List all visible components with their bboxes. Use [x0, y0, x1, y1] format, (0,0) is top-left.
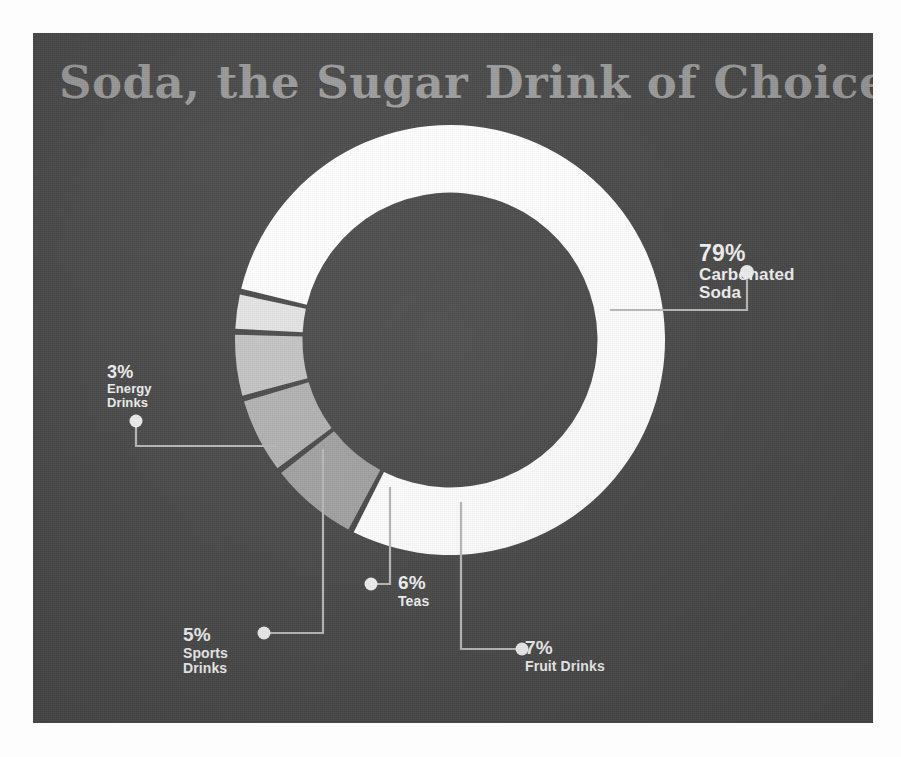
donut-chart	[33, 33, 873, 723]
callout-fruit-drinks-percent: 7%	[525, 638, 605, 659]
leader-dot-sports-drinks	[258, 627, 271, 640]
poster-page: Soda, the Sugar Drink of Choice	[0, 0, 901, 757]
callout-carbonated-soda-name-line2: Soda	[699, 284, 794, 302]
callout-teas: 6% Teas	[398, 573, 429, 609]
callout-carbonated-soda: 79% Carbonated Soda	[699, 241, 794, 303]
callout-carbonated-soda-name-line1: Carbonated	[699, 266, 794, 284]
callout-carbonated-soda-percent: 79%	[699, 241, 794, 266]
callout-sports-drinks-name-line1: Sports	[183, 646, 228, 661]
callout-energy-drinks-name-line2: Drinks	[107, 396, 152, 410]
callout-energy-drinks: 3% Energy Drinks	[107, 363, 152, 411]
callout-fruit-drinks-name-line1: Fruit Drinks	[525, 659, 605, 674]
donut-segments	[235, 125, 665, 555]
callout-sports-drinks-name-line2: Drinks	[183, 661, 228, 676]
callout-energy-drinks-name-line1: Energy	[107, 382, 152, 396]
leader-dot-energy-drinks	[130, 415, 143, 428]
callout-sports-drinks: 5% Sports Drinks	[183, 625, 228, 676]
chart-panel: Soda, the Sugar Drink of Choice	[33, 33, 873, 723]
callout-energy-drinks-percent: 3%	[107, 363, 152, 382]
callout-fruit-drinks: 7% Fruit Drinks	[525, 638, 605, 674]
callout-teas-percent: 6%	[398, 573, 429, 594]
leader-dot-teas	[365, 578, 378, 591]
callout-sports-drinks-percent: 5%	[183, 625, 228, 646]
callout-teas-name-line1: Teas	[398, 594, 429, 609]
